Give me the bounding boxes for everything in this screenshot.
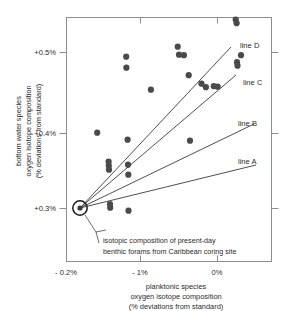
x-axis-title-line2: oxygen isotope composition xyxy=(130,292,221,301)
data-point xyxy=(125,172,131,178)
y-axis-title: bottom water species oxygen isotope comp… xyxy=(14,84,43,178)
line-c-path xyxy=(80,75,236,208)
data-point xyxy=(125,208,131,214)
data-point xyxy=(175,44,181,50)
origin-annotation-line2: benthic forams from Caribbean coring sit… xyxy=(103,247,236,256)
data-point xyxy=(148,87,154,93)
line-d-path xyxy=(80,47,231,208)
y-axis-title-line2: oxygen isotope composition xyxy=(24,85,33,176)
series-label-line-b: line B xyxy=(238,119,257,128)
data-point xyxy=(215,84,221,90)
data-point xyxy=(125,137,131,143)
data-point xyxy=(106,167,112,173)
y-tick-label-0: +0.5% xyxy=(34,48,56,57)
data-point xyxy=(187,138,193,144)
data-point xyxy=(186,72,192,78)
x-axis-title-line3: (% deviations from standard) xyxy=(129,302,223,311)
y-axis-ticks xyxy=(60,53,279,209)
data-point xyxy=(107,205,113,211)
data-point xyxy=(123,65,129,71)
x-tick-label-0: - 0.2% xyxy=(55,268,77,277)
line-a-path xyxy=(80,165,256,208)
data-point xyxy=(181,52,187,58)
data-point xyxy=(234,20,240,26)
origin-annotation-line1: isotopic composition of present-day xyxy=(103,236,216,245)
data-point xyxy=(94,130,100,136)
data-point xyxy=(238,52,244,58)
origin-marker xyxy=(73,201,87,215)
series-label-line-d: line D xyxy=(240,41,260,50)
data-point xyxy=(203,84,209,90)
y-axis-title-line1: bottom water species xyxy=(14,96,23,166)
x-axis-title-line1: planktonic species xyxy=(146,282,207,291)
x-tick-label-1: - 1% xyxy=(132,268,148,277)
series-label-line-a: line A xyxy=(238,157,258,166)
data-point xyxy=(234,63,240,69)
chart-figure: +0.5% +0.4% +0.3% - 0.2% - 1% 0% line D … xyxy=(0,0,289,311)
series-label-line-c: line C xyxy=(243,78,263,87)
x-tick-label-2: 0% xyxy=(212,268,223,277)
regression-lines xyxy=(80,47,256,208)
y-tick-label-2: +0.3% xyxy=(34,204,56,213)
scatter-points xyxy=(94,17,244,214)
oxygen-isotope-scatter-plot: +0.5% +0.4% +0.3% - 0.2% - 1% 0% line D … xyxy=(0,0,289,311)
data-point xyxy=(123,54,129,60)
y-axis-title-line3: (% deviations from standard) xyxy=(34,84,43,178)
data-point xyxy=(125,162,131,168)
